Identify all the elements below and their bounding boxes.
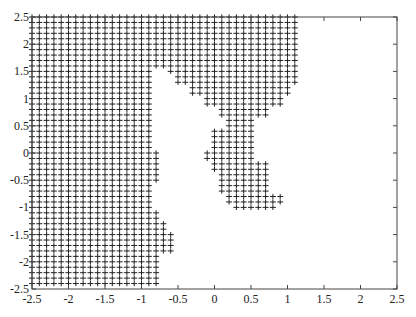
plus-marker [36,237,42,242]
plus-marker [233,178,239,183]
plus-marker [80,172,86,177]
plus-marker [139,80,145,85]
plus-marker [95,199,101,204]
plus-marker [131,91,137,96]
plus-marker [146,167,152,172]
plus-marker [131,101,137,106]
plus-marker [36,161,42,166]
plus-marker [124,80,130,85]
plus-marker [270,199,276,204]
plus-marker [58,281,64,286]
plus-marker [109,134,115,139]
plus-marker [58,210,64,215]
plus-marker [124,58,130,63]
plus-marker [80,63,86,68]
plus-marker [233,91,239,96]
plus-marker [146,243,152,248]
plus-marker [44,112,50,117]
plus-marker [168,248,174,253]
plus-marker [139,232,145,237]
plus-marker [51,237,57,242]
plus-marker [219,112,225,117]
plus-marker [241,42,247,47]
plus-marker [124,237,130,242]
plus-marker [73,188,79,193]
plus-marker [139,140,145,145]
plus-marker [117,85,123,90]
plus-marker [80,254,86,259]
plus-marker [153,178,159,183]
plus-marker [270,194,276,199]
plus-marker [124,91,130,96]
plus-marker [95,112,101,117]
plus-marker [233,183,239,188]
plus-marker [270,91,276,96]
plus-marker [95,96,101,101]
plus-marker [233,118,239,123]
plus-marker [44,243,50,248]
plus-marker [270,96,276,101]
plus-marker [73,69,79,74]
plus-marker [117,96,123,101]
plus-marker [153,248,159,253]
plus-marker [182,25,188,30]
plus-marker [139,31,145,36]
plus-marker [95,172,101,177]
plus-marker [117,183,123,188]
y-tick-label: 1.5 [14,64,29,78]
plus-marker [44,172,50,177]
plus-marker [168,63,174,68]
plus-marker [80,156,86,161]
plus-marker [58,270,64,275]
plus-marker [212,42,218,47]
plus-marker [226,145,232,150]
plus-marker [109,80,115,85]
plus-markers [29,14,298,286]
plus-marker [117,52,123,57]
plus-marker [51,80,57,85]
plus-marker [153,20,159,25]
y-tick-label: 2.5 [14,10,29,24]
plus-marker [146,145,152,150]
plus-marker [204,156,210,161]
plus-marker [131,25,137,30]
plus-marker [255,36,261,41]
plus-marker [204,85,210,90]
y-tick-label: 2 [23,37,29,51]
plus-marker [146,107,152,112]
plus-marker [219,134,225,139]
plus-marker [212,52,218,57]
plus-marker [241,25,247,30]
plus-marker [277,42,283,47]
plus-marker [95,210,101,215]
plus-marker [80,232,86,237]
y-tick-label: 0 [23,146,29,160]
plus-marker [44,276,50,281]
plus-marker [139,161,145,166]
plus-marker [44,85,50,90]
plus-marker [175,63,181,68]
plus-marker [36,25,42,30]
plus-marker [117,20,123,25]
plus-marker [263,52,269,57]
plus-marker [80,161,86,166]
plus-marker [146,276,152,281]
plus-marker [226,172,232,177]
plus-marker [87,237,93,242]
plus-marker [131,276,137,281]
plus-marker [139,123,145,128]
plus-marker [51,123,57,128]
plus-marker [182,63,188,68]
plus-marker [102,172,108,177]
plus-marker [131,58,137,63]
plus-marker [212,36,218,41]
plus-marker [66,58,72,63]
plus-marker [226,199,232,204]
plus-marker [58,265,64,270]
plus-marker [58,167,64,172]
plus-marker [241,91,247,96]
plus-marker [277,96,283,101]
plus-marker [95,91,101,96]
x-tick-label: -2 [64,292,74,306]
plus-marker [139,25,145,30]
